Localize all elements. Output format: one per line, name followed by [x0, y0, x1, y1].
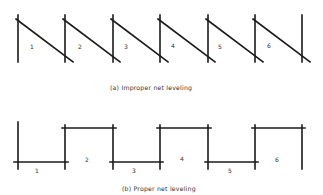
net-leveling-diagram: 1 2 3 4 5 6 (a) Improper net leveling 1 … — [0, 0, 323, 195]
panel-label: 2 — [78, 43, 82, 50]
caption-a: (a) Improper net leveling — [110, 84, 192, 92]
panel-label: 6 — [267, 42, 271, 49]
panel-label: 1 — [30, 43, 34, 50]
panel-label: 6 — [275, 156, 279, 163]
panel-label: 4 — [171, 42, 175, 49]
panel-label: 5 — [218, 43, 222, 50]
panel-label: 3 — [132, 167, 136, 174]
panel-label: 1 — [35, 167, 39, 174]
panel-label: 4 — [180, 155, 184, 162]
proper-net-leveling-figure: 1 2 3 4 5 6 (b) Proper net leveling — [14, 122, 305, 193]
panel-label: 5 — [228, 167, 232, 174]
improper-net-leveling-figure: 1 2 3 4 5 6 (a) Improper net leveling — [16, 15, 310, 92]
panel-label: 3 — [124, 43, 128, 50]
caption-b: (b) Proper net leveling — [122, 185, 196, 193]
panel-label: 2 — [85, 156, 89, 163]
